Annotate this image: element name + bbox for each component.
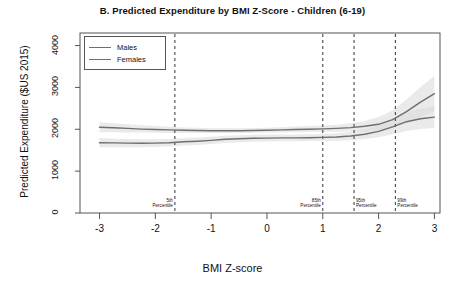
plot-area: [0, 0, 465, 293]
x-tick-label: -1: [199, 223, 223, 234]
y-tick-label: 1000: [50, 153, 60, 187]
x-tick-label: 1: [311, 223, 335, 234]
legend-line-females-icon: [89, 59, 111, 60]
y-tick-label: 2000: [50, 111, 60, 145]
percentile-annotation: 95thPercentile: [356, 198, 376, 209]
y-tick-label: 0: [50, 195, 60, 229]
legend-label-males: Males: [117, 43, 137, 52]
percentile-annotation: 99thPercentile: [397, 198, 417, 209]
x-tick-label: 3: [422, 223, 446, 234]
y-tick-label: 3000: [50, 69, 60, 103]
x-tick-label: -3: [88, 223, 112, 234]
chart-figure: B. Predicted Expenditure by BMI Z-Score …: [0, 0, 465, 293]
chart-legend: Males Females: [84, 36, 166, 70]
percentile-annotation: 5thPercentile: [125, 198, 173, 209]
legend-item-females: Females: [89, 53, 161, 65]
x-tick-label: -2: [143, 223, 167, 234]
percentile-annotation-unit: Percentile: [273, 203, 321, 208]
percentile-annotation-unit: Percentile: [125, 203, 173, 208]
percentile-annotation-unit: Percentile: [356, 203, 376, 208]
legend-label-females: Females: [117, 55, 146, 64]
legend-item-males: Males: [89, 41, 161, 53]
x-tick-label: 0: [255, 223, 279, 234]
y-tick-label: 4000: [50, 28, 60, 62]
x-tick-label: 2: [367, 223, 391, 234]
legend-line-males-icon: [89, 47, 111, 48]
percentile-annotation-unit: Percentile: [397, 203, 417, 208]
percentile-annotation: 85thPercentile: [273, 198, 321, 209]
